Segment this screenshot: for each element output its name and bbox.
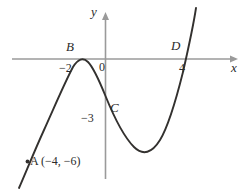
y-tick-label-neg3: −3: [81, 112, 94, 124]
origin-label: 0: [99, 61, 105, 73]
y-axis-label: y: [91, 5, 97, 18]
point-a-marker: [26, 160, 30, 164]
x-axis-label: x: [231, 61, 237, 74]
point-label-a-with-coords: A (−4, −6): [30, 155, 81, 167]
point-label-b: B: [66, 40, 74, 53]
graph-figure: y x 0 B −2 C −3 D 4 A (−4, −6): [0, 0, 246, 190]
y-axis-arrow: [102, 12, 109, 20]
point-label-c: C: [110, 101, 119, 114]
x-tick-label-4: 4: [179, 62, 185, 74]
x-tick-label-neg2: −2: [59, 62, 72, 74]
point-label-d: D: [171, 39, 180, 52]
